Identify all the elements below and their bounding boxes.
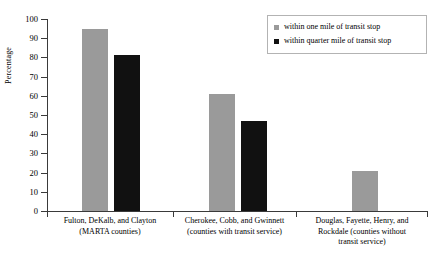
legend-item: within quarter mile of transit stop xyxy=(274,34,420,48)
x-axis-group-label-line: Fulton, DeKalb, and Clayton xyxy=(47,216,173,227)
legend-item-label: within one mile of transit stop xyxy=(284,22,380,32)
y-axis-tick xyxy=(41,192,47,193)
y-axis-tick xyxy=(41,96,47,97)
y-axis-tick xyxy=(41,77,47,78)
y-axis-tick xyxy=(41,173,47,174)
x-axis-group-label: Fulton, DeKalb, and Clayton(MARTA counti… xyxy=(47,216,173,237)
legend-item-label: within quarter mile of transit stop xyxy=(284,36,391,46)
y-axis-tick xyxy=(41,153,47,154)
bar xyxy=(241,121,267,211)
x-axis-group-label-line: (MARTA counties) xyxy=(47,227,173,238)
bar xyxy=(209,94,235,211)
x-axis-group-label-line: transit service) xyxy=(296,237,428,248)
legend-swatch-light-icon xyxy=(274,25,279,30)
y-axis-tick-label: 70 xyxy=(0,73,38,81)
x-axis-group-label-line: (counties with transit service) xyxy=(173,227,296,238)
legend-item: within one mile of transit stop xyxy=(274,20,420,34)
x-axis-group-label-line: Rockdale (counties without xyxy=(296,227,428,238)
x-axis-group-label: Douglas, Fayette, Henry, andRockdale (co… xyxy=(296,216,428,248)
y-axis-tick-label: 30 xyxy=(0,149,38,157)
y-axis-tick xyxy=(41,57,47,58)
bar xyxy=(114,55,140,211)
bar-chart: Percentage 1009080706050403020100 Fulton… xyxy=(0,0,431,257)
y-axis-tick-label: 80 xyxy=(0,53,38,61)
x-axis-group-label: Cherokee, Cobb, and Gwinnett(counties wi… xyxy=(173,216,296,237)
y-axis-tick-label: 20 xyxy=(0,169,38,177)
y-axis-tick-label: 100 xyxy=(0,15,38,23)
y-axis-tick xyxy=(41,38,47,39)
y-axis-tick-label: 0 xyxy=(0,207,38,215)
y-axis-tick-label: 40 xyxy=(0,130,38,138)
bar xyxy=(82,29,108,211)
y-axis-tick xyxy=(41,115,47,116)
legend: within one mile of transit stop within q… xyxy=(267,15,427,54)
bar xyxy=(352,171,378,211)
x-axis-group-label-line: Douglas, Fayette, Henry, and xyxy=(296,216,428,227)
y-axis-tick xyxy=(41,134,47,135)
y-axis-tick-label: 50 xyxy=(0,111,38,119)
y-axis-tick-label: 10 xyxy=(0,188,38,196)
x-axis-line xyxy=(47,211,428,212)
x-axis-group-label-line: Cherokee, Cobb, and Gwinnett xyxy=(173,216,296,227)
y-axis-tick-label: 60 xyxy=(0,92,38,100)
y-axis-tick-label: 90 xyxy=(0,34,38,42)
legend-swatch-dark-icon xyxy=(274,39,279,44)
y-axis-tick xyxy=(41,19,47,20)
